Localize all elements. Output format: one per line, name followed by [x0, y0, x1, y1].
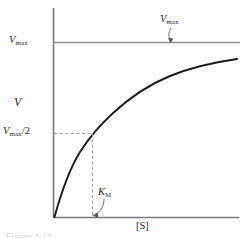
- y-axis-title-symbol: V: [14, 95, 21, 109]
- km-callout-label: KM: [98, 187, 111, 198]
- michaelis-menten-curve: [55, 59, 238, 217]
- half-vmax-suffix: /2: [22, 125, 30, 136]
- x-axis-title-text: [S]: [136, 220, 149, 231]
- x-axis-title: [S]: [136, 221, 149, 232]
- vmax-tick-label-subscript: max: [15, 39, 28, 46]
- half-vmax-tick-label: Vmax/2: [3, 126, 30, 137]
- km-symbol: K: [98, 186, 105, 197]
- vmax-tick-label: Vmax: [9, 35, 28, 46]
- km-subscript: M: [105, 191, 111, 198]
- plot-canvas: [0, 0, 240, 238]
- half-vmax-subscript: max: [9, 130, 22, 137]
- vmax-callout-label: Vmax: [160, 14, 179, 25]
- vmax-callout-subscript: max: [166, 18, 179, 25]
- michaelis-menten-figure: Vmax Vmax/2 Vmax KM V [S] Figure 2-12: [0, 0, 240, 238]
- km-callout-leader-line: [95, 199, 104, 215]
- figure-caption: Figure 2-12: [6, 231, 52, 238]
- y-axis-title: V: [14, 96, 21, 108]
